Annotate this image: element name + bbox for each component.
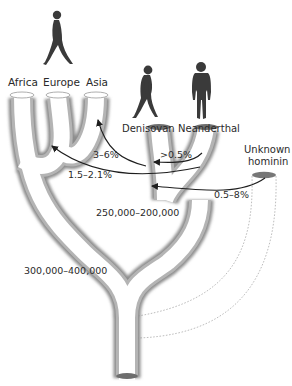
human-lineage-tubes xyxy=(22,96,206,380)
label-flow-3-6: 3–6% xyxy=(93,150,119,160)
asia-opening xyxy=(84,92,108,98)
label-date-300k-400k: 300,000–400,000 xyxy=(24,266,107,276)
europe-opening xyxy=(46,92,70,98)
label-date-250k-200k: 250,000–200,000 xyxy=(96,208,179,218)
label-unknown: Unknown xyxy=(244,145,290,155)
denisovan-figure xyxy=(132,66,158,118)
africa-opening xyxy=(10,92,34,98)
unknown-hominin-cap xyxy=(252,172,276,178)
label-flow-0-5-8: 0.5–8% xyxy=(214,190,249,200)
label-neanderthal: Neanderthal xyxy=(178,124,240,134)
neanderthal-figure xyxy=(192,62,211,119)
label-denisovan: Denisovan xyxy=(122,124,175,134)
label-flow-1-5-2-1: 1.5–2.1% xyxy=(68,170,112,180)
label-africa: Africa xyxy=(8,77,38,88)
label-europe: Europe xyxy=(43,77,80,88)
label-hominin: hominin xyxy=(248,157,288,167)
label-flow-0-5: >0.5% xyxy=(160,150,192,160)
modern-human-figure xyxy=(43,11,73,65)
label-asia: Asia xyxy=(86,77,108,88)
root-cap xyxy=(116,373,138,379)
